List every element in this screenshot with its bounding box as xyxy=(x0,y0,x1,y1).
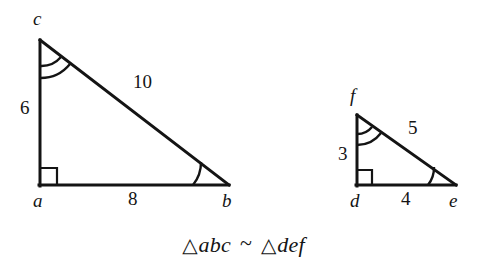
similarity-caption: △abc~△def xyxy=(0,232,487,258)
side-label-ac: 6 xyxy=(20,98,30,117)
vertex-label-f: f xyxy=(350,86,355,105)
side-label-cb: 10 xyxy=(133,72,152,91)
angle-mark-e-single-arc xyxy=(428,167,434,185)
triangle-symbol-left: △ xyxy=(182,234,198,256)
side-label-ab: 8 xyxy=(128,189,138,208)
vertex-label-e: e xyxy=(449,191,457,210)
similarity-symbol: ~ xyxy=(231,230,261,255)
vertex-label-a: a xyxy=(33,191,43,210)
vertex-label-c: c xyxy=(33,9,41,28)
vertex-label-b: b xyxy=(222,191,232,210)
side-label-fe: 5 xyxy=(408,118,418,137)
right-angle-mark-a xyxy=(40,168,57,185)
triangle-abc xyxy=(39,40,229,186)
side-label-df: 3 xyxy=(338,144,348,163)
triangle-name-def: def xyxy=(277,232,304,257)
similar-triangles-figure: c a b 6 8 10 f d e 3 4 5 △abc~△def xyxy=(0,0,487,277)
triangle-def xyxy=(356,115,456,186)
vertex-label-d: d xyxy=(350,191,360,210)
triangle-symbol-right: △ xyxy=(261,234,277,256)
right-angle-mark-d xyxy=(357,170,372,185)
angle-mark-b-single-arc xyxy=(193,162,201,185)
triangle-name-abc: abc xyxy=(199,232,231,257)
side-label-de: 4 xyxy=(401,189,411,208)
